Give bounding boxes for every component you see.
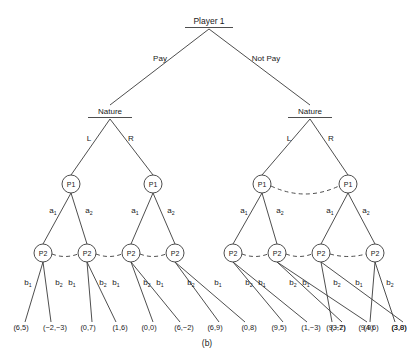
root-action-label-0: Pay — [153, 54, 167, 63]
infoset-arc-p2-0-0 — [52, 254, 78, 257]
tree-labels: Player 1PayNot PayNatureNatureLRLRP1P1P1… — [13, 16, 406, 348]
p2-action-label-5: b2 — [143, 278, 150, 288]
p1-action-label-6: a1 — [326, 206, 333, 216]
p2-node-label-2: P2 — [127, 250, 136, 257]
edge-p2-6-to-leaf-left — [321, 262, 403, 322]
edge-p1-1-to-p2-left — [131, 193, 153, 244]
edge-p1-3-to-p2-right — [348, 193, 375, 244]
p2-node-label-5: P2 — [273, 250, 282, 257]
p1-action-label-5: a2 — [276, 206, 283, 216]
game-tree-figure: Player 1PayNot PayNatureNatureLRLRP1P1P1… — [0, 0, 419, 361]
p1-node-label-3: P1 — [344, 181, 353, 188]
figure-caption: (b) — [202, 338, 213, 348]
edge-p1-2-to-p2-right — [262, 193, 277, 244]
edge-root-to-nature-1 — [209, 29, 310, 105]
payoff-label-4: (0,0) — [141, 323, 156, 332]
chance-action-label-1: R — [128, 134, 134, 143]
p1-node-label-1: P1 — [149, 181, 158, 188]
edge-root-to-nature-0 — [110, 29, 209, 105]
root-action-label-1: Not Pay — [252, 54, 280, 63]
payoff-label-8: (9,5) — [271, 323, 286, 332]
p2-action-label-8: b1 — [214, 278, 221, 288]
payoff-label-15: (3,8) — [391, 323, 406, 332]
payoff-label-0: (6,5) — [13, 323, 28, 332]
chance-node-label-0: Nature — [98, 107, 123, 116]
payoff-label-13: (9,−2) — [326, 323, 346, 332]
p2-action-label-13: b2 — [333, 278, 340, 288]
tree-nodes — [34, 28, 384, 263]
edge-p2-4-to-leaf-right — [233, 262, 307, 322]
p1-action-label-0: a1 — [49, 206, 56, 216]
payoff-label-7: (0,8) — [241, 323, 256, 332]
p2-node-label-3: P2 — [171, 250, 180, 257]
p2-node-label-0: P2 — [39, 250, 48, 257]
edge-nature-0-to-p1-left — [71, 119, 110, 175]
edge-p2-3-to-leaf-right — [175, 262, 245, 322]
p1-node-label-0: P1 — [67, 181, 76, 188]
payoff-label-3: (1,6) — [112, 323, 127, 332]
edge-p2-7-to-leaf-right — [375, 262, 395, 322]
p2-action-label-1: b2 — [55, 278, 62, 288]
p1-action-label-7: a2 — [362, 206, 369, 216]
p2-action-label-15: b2 — [386, 278, 393, 288]
edge-p1-1-to-p2-right — [153, 193, 175, 244]
edge-p1-2-to-p2-left — [233, 193, 262, 244]
p2-action-label-2: b1 — [68, 278, 75, 288]
p2-node-label-4: P2 — [229, 250, 238, 257]
payoff-label-14: (9,9) — [358, 323, 373, 332]
infoset-arc-p1-right — [271, 186, 339, 194]
edge-p2-2-to-leaf-left — [131, 262, 153, 322]
payoff-label-5: (6,−2) — [174, 323, 194, 332]
infoset-arc-p2-0-2 — [140, 254, 166, 257]
chance-action-label-3: R — [328, 134, 334, 143]
edge-p1-0-to-p2-right — [71, 193, 87, 244]
payoff-label-1: (−2,−3) — [43, 323, 67, 332]
edge-nature-1-to-p1-left — [262, 119, 310, 175]
p1-action-label-2: a1 — [131, 206, 138, 216]
edge-nature-1-to-p1-right — [310, 119, 348, 175]
edge-p1-0-to-p2-left — [43, 193, 71, 244]
p2-action-label-12: b1 — [302, 278, 309, 288]
chance-action-label-0: L — [87, 134, 92, 143]
p1-node-label-2: P1 — [258, 181, 267, 188]
edge-nature-0-to-p1-right — [110, 119, 153, 175]
p2-action-label-10: b1 — [258, 278, 265, 288]
p2-action-label-14: b1 — [355, 278, 362, 288]
edge-p2-0-to-leaf-right — [43, 262, 51, 322]
edge-p2-3-to-leaf-left — [175, 262, 219, 322]
payoff-label-2: (0,7) — [80, 323, 95, 332]
payoff-label-6: (6,9) — [207, 323, 222, 332]
infoset-arc-p2-1-0 — [242, 254, 268, 257]
p2-action-label-7: b2 — [187, 278, 194, 288]
edge-p2-4-to-leaf-left — [233, 262, 283, 322]
infoset-arc-p2-1-2 — [330, 254, 366, 257]
p2-action-label-0: b1 — [24, 278, 31, 288]
p2-node-label-7: P2 — [371, 250, 380, 257]
root-player-label: Player 1 — [193, 16, 224, 26]
edge-p2-7-to-leaf-left — [370, 262, 375, 322]
p1-action-label-3: a2 — [167, 206, 174, 216]
p1-action-label-1: a2 — [85, 206, 92, 216]
p2-node-label-6: P2 — [317, 250, 326, 257]
edge-p2-5-to-leaf-left — [277, 262, 342, 322]
p2-action-label-4: b1 — [112, 278, 119, 288]
p2-action-label-3: b2 — [99, 278, 106, 288]
edge-p2-5-to-leaf-right — [277, 262, 367, 322]
edge-p2-2-to-leaf-right — [131, 262, 180, 322]
edge-p1-3-to-p2-left — [321, 193, 348, 244]
p1-action-label-4: a1 — [240, 206, 247, 216]
infoset-arc-p2-0-1 — [96, 254, 122, 257]
p2-node-label-1: P2 — [83, 250, 92, 257]
p2-action-label-6: b1 — [156, 278, 163, 288]
chance-node-label-1: Nature — [298, 107, 323, 116]
infoset-arc-p2-1-1 — [286, 254, 312, 257]
edge-p2-0-to-leaf-left — [25, 262, 43, 322]
payoff-label-9: (1,−3) — [301, 323, 321, 332]
p2-action-label-9: b2 — [245, 278, 252, 288]
chance-action-label-2: L — [287, 134, 292, 143]
